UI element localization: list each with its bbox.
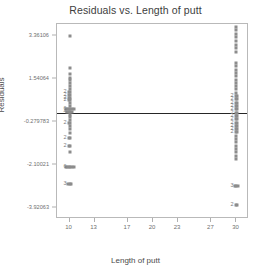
data-point <box>72 166 75 169</box>
data-point <box>68 131 71 134</box>
y-tick-label: -2.10021 <box>27 161 49 167</box>
data-point <box>68 35 71 38</box>
y-tick-label: 3.36106 <box>29 32 49 38</box>
x-axis-title: Length of putt <box>0 256 271 265</box>
point-count-label: 6 <box>63 165 67 171</box>
y-axis-ticks: 3.361061.54064-0.279783-2.10021-3.92063 <box>6 23 56 218</box>
data-point <box>68 127 71 130</box>
x-tick-label: 23 <box>174 224 181 230</box>
data-point <box>236 204 239 207</box>
x-tick-mark <box>235 218 236 222</box>
x-tick-label: 17 <box>124 224 131 230</box>
x-axis-ticks: 10131720232730 <box>56 218 248 234</box>
point-count-label: 2 <box>230 203 234 209</box>
data-point <box>68 151 71 154</box>
y-tick-label: -3.92063 <box>27 204 49 210</box>
data-point <box>235 50 238 53</box>
y-tick-label: -0.279783 <box>24 118 49 124</box>
x-tick-label: 30 <box>232 224 239 230</box>
data-point <box>69 137 72 140</box>
chart-container: Residuals vs. Length of putt Residuals L… <box>0 0 271 279</box>
point-count-label: 3 <box>63 181 67 187</box>
point-count-label: 2 <box>63 98 67 104</box>
data-point <box>235 36 238 39</box>
data-point <box>235 46 238 49</box>
x-tick-label: 27 <box>207 224 214 230</box>
x-tick-mark <box>210 218 211 222</box>
y-tick-label: 1.54064 <box>29 75 49 81</box>
x-tick-mark <box>69 218 70 222</box>
x-tick-label: 20 <box>149 224 156 230</box>
reference-line <box>57 113 247 114</box>
x-tick-mark <box>127 218 128 222</box>
point-count-label: 4 <box>63 109 67 115</box>
x-tick-mark <box>94 218 95 222</box>
point-count-label: 2 <box>230 130 234 136</box>
point-count-label: 2 <box>63 135 67 141</box>
data-point <box>69 144 72 147</box>
data-point <box>68 66 71 69</box>
plot-area: 2222642226322222222222232 <box>56 23 248 218</box>
data-point <box>235 39 238 42</box>
data-point <box>235 157 238 160</box>
x-tick-mark <box>152 218 153 222</box>
chart-title: Residuals vs. Length of putt <box>0 4 271 16</box>
point-count-label: 2 <box>63 143 67 149</box>
point-count-label: 3 <box>230 183 234 189</box>
data-point <box>70 183 73 186</box>
x-tick-mark <box>177 218 178 222</box>
x-tick-label: 10 <box>65 224 72 230</box>
x-tick-label: 13 <box>90 224 97 230</box>
point-count-label: 2 <box>63 120 67 126</box>
data-point <box>237 184 240 187</box>
